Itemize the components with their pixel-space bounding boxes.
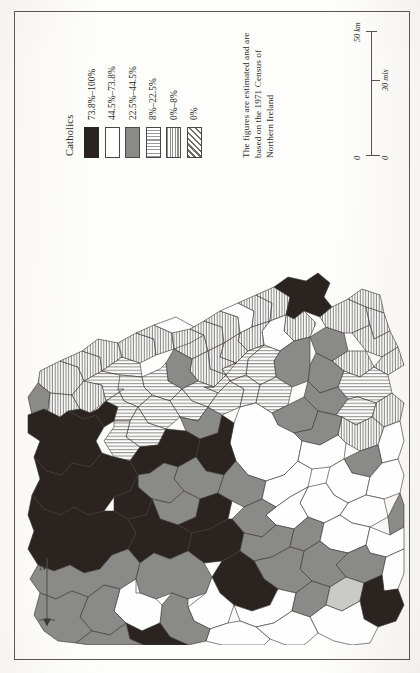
compass-arrow-icon	[34, 556, 60, 642]
scale-bar-line	[371, 32, 372, 156]
scale-label-miles-min: 0	[381, 156, 390, 160]
scale-tick-km-max	[366, 31, 377, 32]
scale-label-km-max: 50 km	[353, 22, 362, 42]
legend-label: 22.5%–44.5%	[128, 66, 138, 120]
scale-bar: 0 50 km 0 30 mls	[352, 12, 392, 162]
legend-title: Catholics	[64, 8, 75, 156]
legend-item: 44.5%–73.8%	[105, 8, 120, 158]
legend-label: 0%–8%	[169, 90, 179, 120]
legend-label: 44.5%–73.8%	[107, 66, 117, 120]
legend-swatch-diagonal-hatch	[187, 127, 202, 158]
legend-swatch-horizontal-lines	[166, 127, 181, 158]
source-note: The figures are estimated and are based …	[240, 20, 277, 158]
legend-label: 8%–22.5%	[148, 78, 158, 120]
legend-label: 73.8%–100%	[87, 69, 97, 120]
north-arrow: N	[34, 556, 60, 642]
legend-label: 0%	[189, 107, 199, 120]
legend-item: 0%	[187, 8, 202, 158]
legend-swatch-solid-white	[105, 127, 120, 158]
legend-item: 22.5%–44.5%	[125, 8, 140, 158]
legend-swatch-vertical-lines	[146, 127, 161, 158]
legend-item: 8%–22.5%	[146, 8, 161, 158]
legend-item: 73.8%–100%	[84, 8, 99, 158]
legend: Catholics 73.8%–100% 44.5%–73.8% 22.5%–4…	[64, 8, 207, 158]
legend-item: 0%–8%	[166, 8, 181, 158]
map-page: Catholics 73.8%–100% 44.5%–73.8% 22.5%–4…	[0, 0, 420, 673]
legend-swatch-solid-grey	[125, 127, 140, 158]
north-label: N	[39, 560, 46, 572]
choropleth-map	[26, 175, 406, 645]
scale-tick-miles-max	[372, 80, 380, 81]
scale-tick-miles-min	[372, 155, 380, 156]
scale-label-km-min: 0	[353, 156, 362, 160]
scale-label-miles-max: 30 mls	[381, 69, 390, 91]
legend-swatch-solid-black	[84, 127, 99, 158]
